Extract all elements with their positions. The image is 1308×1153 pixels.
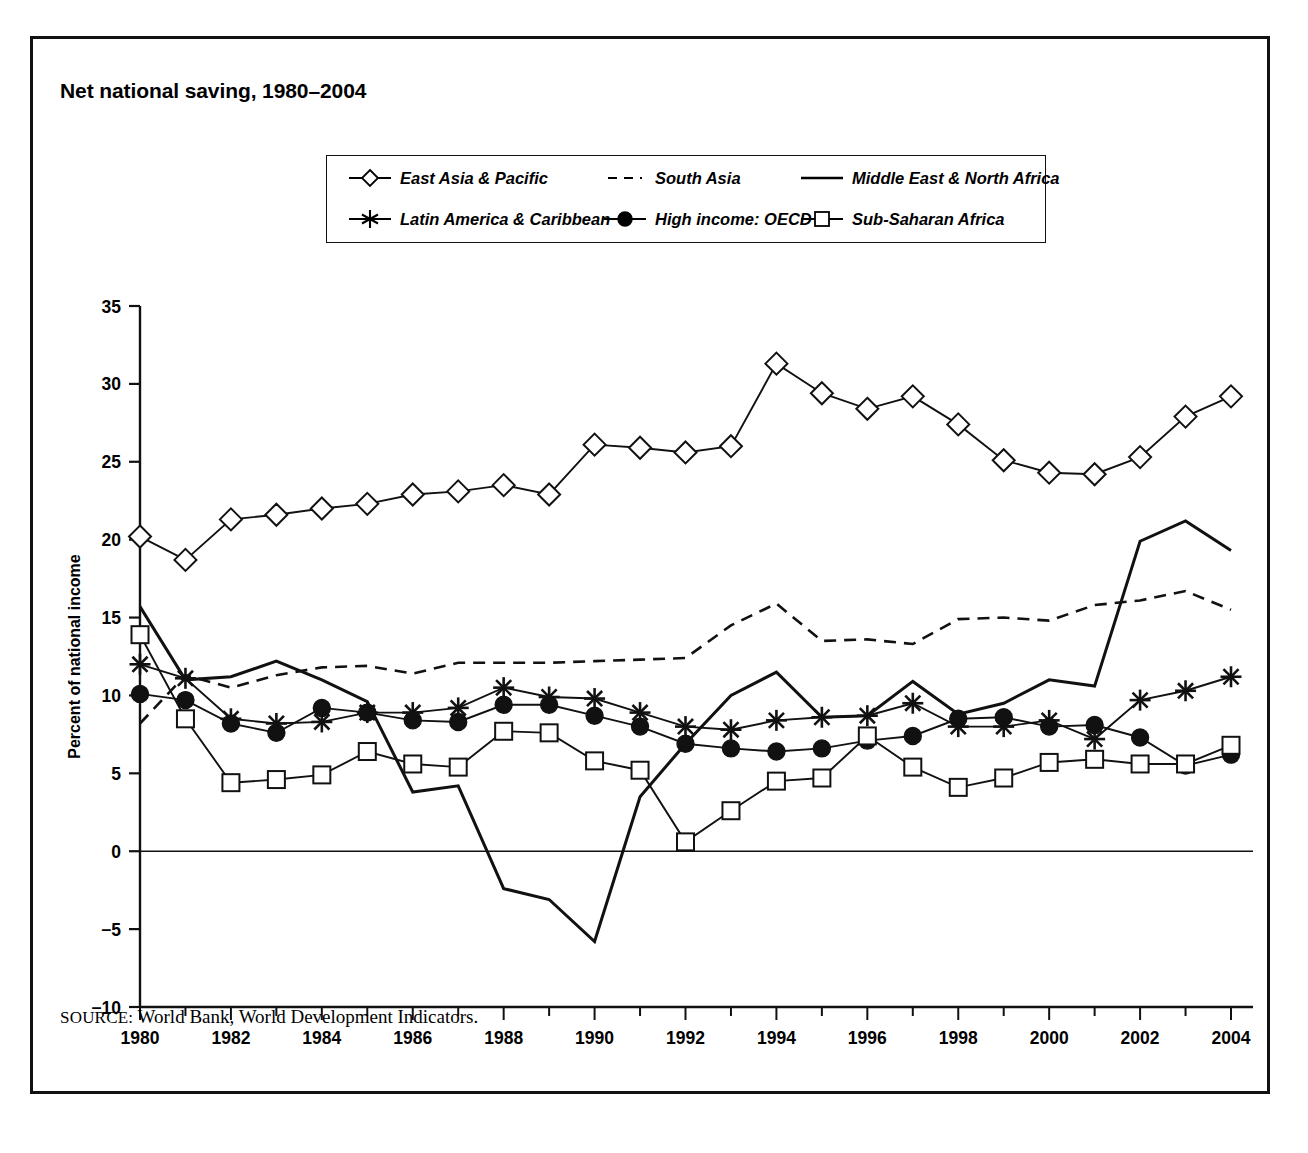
- data-point-square: [177, 710, 194, 727]
- series-1: [140, 591, 1231, 723]
- data-point-diamond: [947, 413, 969, 435]
- data-point-asterisk: [811, 707, 832, 728]
- data-point-asterisk: [720, 719, 741, 740]
- line-chart-plot: −10−505101520253035Percent of national i…: [33, 39, 1267, 1091]
- data-point-asterisk: [1221, 666, 1242, 687]
- data-point-diamond: [902, 385, 924, 407]
- data-point-asterisk: [584, 688, 605, 709]
- data-point-square: [1086, 751, 1103, 768]
- data-point-diamond: [129, 526, 151, 548]
- data-point-diamond: [356, 493, 378, 515]
- data-point-circle: [404, 712, 421, 729]
- x-axis-tick-label: 1988: [484, 1028, 523, 1048]
- data-point-diamond: [720, 435, 742, 457]
- data-point-diamond: [1220, 385, 1242, 407]
- x-axis-tick-label: 1980: [121, 1028, 160, 1048]
- data-point-diamond: [402, 483, 424, 505]
- x-axis-tick-label: 2000: [1030, 1028, 1069, 1048]
- source-text: World Bank, World Development Indicators…: [133, 1006, 478, 1027]
- data-point-asterisk: [493, 677, 514, 698]
- x-axis-tick-label: 1998: [939, 1028, 978, 1048]
- data-point-circle: [450, 713, 467, 730]
- y-axis-tick-label: 10: [102, 686, 122, 706]
- data-point-square: [541, 724, 558, 741]
- data-point-diamond: [993, 449, 1015, 471]
- data-point-circle: [222, 715, 239, 732]
- data-point-square: [813, 770, 830, 787]
- data-point-square: [495, 723, 512, 740]
- x-axis-tick-label: 2004: [1212, 1028, 1251, 1048]
- data-point-square: [1132, 755, 1149, 772]
- data-point-diamond: [1084, 463, 1106, 485]
- data-point-circle: [268, 724, 285, 741]
- data-point-diamond: [1038, 462, 1060, 484]
- data-point-square: [677, 833, 694, 850]
- data-point-circle: [904, 727, 921, 744]
- data-point-square: [586, 752, 603, 769]
- data-point-diamond: [811, 382, 833, 404]
- data-point-diamond: [629, 437, 651, 459]
- x-axis-tick-label: 1994: [757, 1028, 796, 1048]
- figure-frame: Net national saving, 1980–2004 East Asia…: [30, 36, 1270, 1094]
- data-point-square: [450, 759, 467, 776]
- data-point-circle: [950, 710, 967, 727]
- x-axis-tick-label: 1990: [575, 1028, 614, 1048]
- x-axis-tick-label: 1984: [302, 1028, 341, 1048]
- x-axis-tick-label: 1992: [666, 1028, 705, 1048]
- y-axis-tick-label: −5: [101, 920, 121, 940]
- y-axis-tick-label: 25: [102, 452, 122, 472]
- data-point-square: [950, 779, 967, 796]
- data-point-diamond: [447, 480, 469, 502]
- data-point-square: [1223, 737, 1240, 754]
- data-point-circle: [313, 699, 330, 716]
- data-point-square: [1177, 755, 1194, 772]
- data-point-circle: [495, 696, 512, 713]
- data-point-circle: [813, 740, 830, 757]
- data-point-asterisk: [1130, 690, 1151, 711]
- data-point-circle: [1132, 729, 1149, 746]
- data-point-square: [995, 770, 1012, 787]
- data-point-diamond: [856, 398, 878, 420]
- data-point-square: [632, 762, 649, 779]
- source-keyword: SOURCE:: [60, 1008, 133, 1027]
- data-point-square: [359, 743, 376, 760]
- data-point-asterisk: [130, 654, 151, 675]
- data-point-asterisk: [857, 705, 878, 726]
- y-axis-tick-label: 30: [102, 374, 122, 394]
- data-point-asterisk: [675, 716, 696, 737]
- data-point-square: [904, 759, 921, 776]
- x-axis-tick-label: 2002: [1121, 1028, 1160, 1048]
- y-axis-tick-label: 5: [111, 764, 121, 784]
- data-point-diamond: [265, 504, 287, 526]
- data-point-circle: [1041, 718, 1058, 735]
- data-point-square: [313, 766, 330, 783]
- data-point-asterisk: [766, 710, 787, 731]
- data-point-diamond: [765, 353, 787, 375]
- data-point-square: [1041, 754, 1058, 771]
- data-point-circle: [995, 709, 1012, 726]
- x-axis-tick-label: 1986: [393, 1028, 432, 1048]
- data-point-square: [404, 755, 421, 772]
- y-axis-tick-label: 0: [111, 842, 121, 862]
- series-markers-0: [129, 353, 1242, 571]
- data-point-circle: [541, 696, 558, 713]
- y-axis-title: Percent of national income: [66, 554, 83, 759]
- data-point-circle: [132, 685, 149, 702]
- y-axis-tick-label: 35: [102, 297, 122, 317]
- y-axis-tick-label: 15: [102, 608, 122, 628]
- series-line: [140, 591, 1231, 723]
- data-point-diamond: [311, 498, 333, 520]
- data-point-asterisk: [175, 668, 196, 689]
- data-point-asterisk: [902, 693, 923, 714]
- data-point-square: [859, 727, 876, 744]
- data-point-circle: [586, 707, 603, 724]
- data-point-square: [722, 802, 739, 819]
- data-point-square: [222, 774, 239, 791]
- data-point-square: [132, 626, 149, 643]
- x-axis-tick-label: 1982: [211, 1028, 250, 1048]
- data-point-circle: [632, 718, 649, 735]
- data-point-square: [268, 771, 285, 788]
- data-point-circle: [1086, 717, 1103, 734]
- data-point-circle: [722, 740, 739, 757]
- data-point-circle: [768, 743, 785, 760]
